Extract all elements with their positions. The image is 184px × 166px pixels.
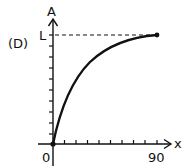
x-axis-label: x: [174, 136, 182, 151]
origin-label: 0: [42, 150, 50, 165]
x-end-label: 90: [148, 150, 165, 165]
limit-label: L: [39, 28, 47, 43]
y-axis-label: A: [47, 4, 56, 19]
graph-figure: (D) A L: [0, 0, 184, 166]
x-axis: [38, 140, 171, 149]
origin-point: [50, 141, 55, 146]
growth-curve: [53, 35, 157, 144]
end-point: [155, 33, 160, 38]
panel-label: (D): [8, 36, 28, 51]
